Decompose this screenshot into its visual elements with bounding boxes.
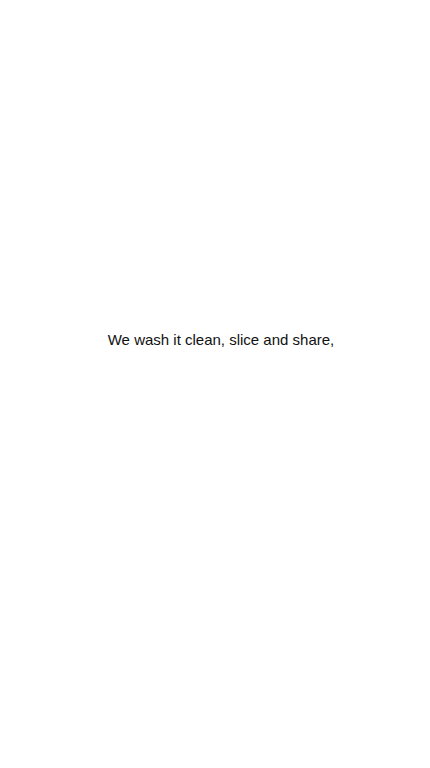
story-text-line: We wash it clean, slice and share, [0,330,430,350]
story-screen[interactable]: We wash it clean, slice and share, [0,0,430,768]
